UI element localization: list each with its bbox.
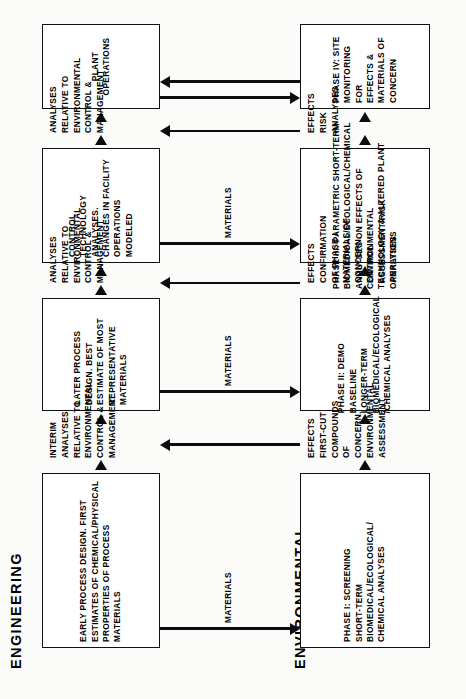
flow-arrow-engineering-2 [95, 285, 107, 295]
cross-link-materials-1-head [290, 623, 300, 635]
cross-link-effects-2-head [160, 277, 170, 289]
flow-arrow-environmental-3 [359, 135, 371, 145]
lane-title-engineering: ENGINEERING [8, 552, 24, 669]
flow-arrow-engineering-1 [95, 460, 107, 470]
process-box-eng-1[interactable]: EARLY PROCESS DESIGN. FIRST ESTIMATES OF… [42, 473, 160, 648]
cross-link-plant-down-line [160, 96, 291, 99]
process-box-eng-1-label: EARLY PROCESS DESIGN. FIRST ESTIMATES OF… [78, 474, 124, 647]
cross-link-effects-2-line [169, 282, 300, 285]
caption-environmental-3: EFFECTS RISK ANALYSES [306, 63, 341, 133]
cross-link-effects-3-head [160, 125, 170, 137]
cross-link-materials-2-line [160, 390, 291, 393]
caption-engineering-3: ANALYSES RELATIVE TO ENVIRONMENTAL CONTR… [48, 63, 107, 133]
cross-link-materials-3-head [290, 238, 300, 250]
process-box-env-1[interactable]: PHASE I: SCREENING SHORT-TERM BIOMEDICAL… [300, 473, 430, 648]
process-box-env-1-label: PHASE I: SCREENING SHORT-TERM BIOMEDICAL… [342, 474, 388, 647]
cross-link-materials-3-line [160, 242, 291, 245]
flow-arrow-environmental-2 [359, 285, 371, 295]
cross-link-materials-1-label: MATERIALS [224, 572, 233, 623]
caption-engineering-2: ANALYSES RELATIVE TO ENVIRONMENTAL CONTR… [48, 213, 107, 283]
caption-engineering-1: INTERIM ANALYSES RELATIVE TO ENVIRONMENT… [48, 388, 119, 458]
cross-link-plant-up-line [169, 80, 300, 83]
flow-arrow-environmental-1 [359, 460, 371, 470]
cross-link-plant-down-head [290, 92, 300, 104]
caption-environmental-2: EFFECTS CONFIRMATION OF PHASE I MATERIAL… [306, 213, 400, 283]
diagram-canvas: ENGINEERINGENVIRONMENTALEARLY PROCESS DE… [0, 0, 466, 699]
flow-arrow-environmental-3b [359, 112, 371, 122]
diagram-root: ENGINEERINGENVIRONMENTALEARLY PROCESS DE… [0, 0, 466, 699]
caption-environmental-1: EFFECTS FIRST-CUT COMPOUNDS OF CONCERN. … [306, 388, 388, 458]
cross-link-effects-1-line [169, 443, 300, 446]
cross-link-effects-3-line [169, 130, 300, 133]
cross-link-plant-up-head [160, 76, 170, 88]
cross-link-materials-3-label: MATERIALS [224, 187, 233, 238]
flow-arrow-engineering-3 [95, 135, 107, 145]
cross-link-effects-1-head [160, 439, 170, 451]
cross-link-materials-1-line [160, 627, 291, 630]
cross-link-materials-2-label: MATERIALS [224, 335, 233, 386]
cross-link-materials-2-head [290, 386, 300, 398]
